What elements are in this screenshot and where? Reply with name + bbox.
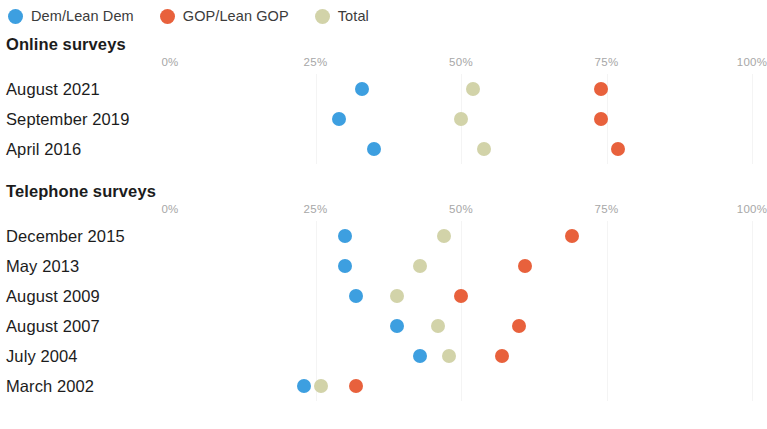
chart-row: August 2007 — [0, 311, 758, 341]
gridline — [752, 251, 753, 281]
gridline — [316, 281, 317, 311]
axis-tick-label: 25% — [304, 56, 328, 68]
gridline — [316, 341, 317, 371]
section-spacer — [0, 164, 758, 182]
data-point-dem[interactable] — [355, 82, 369, 96]
data-point-gop[interactable] — [454, 289, 468, 303]
gridline — [316, 104, 317, 134]
chart-row: May 2013 — [0, 251, 758, 281]
row-plot-area — [170, 311, 752, 341]
gridline — [607, 221, 608, 251]
gridline — [752, 134, 753, 164]
axis-tick-label: 75% — [595, 203, 619, 215]
chart-row: August 2021 — [0, 74, 758, 104]
gridline — [316, 134, 317, 164]
gridline — [316, 311, 317, 341]
chart-legend: Dem/Lean DemGOP/Lean GOPTotal — [0, 0, 758, 26]
gridline — [752, 371, 753, 401]
data-point-dem[interactable] — [390, 319, 404, 333]
data-point-gop[interactable] — [495, 349, 509, 363]
data-point-total[interactable] — [437, 229, 451, 243]
legend-item-total[interactable]: Total — [315, 8, 369, 24]
gridline — [752, 341, 753, 371]
gridline — [607, 251, 608, 281]
gridline — [752, 281, 753, 311]
gridline — [461, 371, 462, 401]
data-point-total[interactable] — [454, 112, 468, 126]
data-point-dem[interactable] — [413, 349, 427, 363]
chart-row: September 2019 — [0, 104, 758, 134]
gridline — [752, 311, 753, 341]
chart-body: Online surveys0%25%50%75%100%August 2021… — [0, 35, 758, 401]
gridline — [752, 221, 753, 251]
data-point-dem[interactable] — [349, 289, 363, 303]
row-plot-area — [170, 371, 752, 401]
legend-item-dem[interactable]: Dem/Lean Dem — [8, 8, 134, 24]
x-axis-online: 0%25%50%75%100% — [170, 54, 752, 74]
row-label: September 2019 — [0, 110, 170, 129]
chart-section-phone: Telephone surveys0%25%50%75%100%December… — [0, 182, 758, 401]
data-point-dem[interactable] — [297, 379, 311, 393]
legend-swatch-total-icon — [315, 9, 330, 24]
row-plot-area — [170, 341, 752, 371]
gridline — [461, 134, 462, 164]
gridline — [752, 104, 753, 134]
chart-row: April 2016 — [0, 134, 758, 164]
row-label: August 2007 — [0, 317, 170, 336]
chart-row: March 2002 — [0, 371, 758, 401]
gridline — [607, 341, 608, 371]
section-title: Online surveys — [0, 35, 758, 54]
data-point-dem[interactable] — [332, 112, 346, 126]
legend-item-gop[interactable]: GOP/Lean GOP — [160, 8, 289, 24]
axis-tick-label: 25% — [304, 203, 328, 215]
row-label: August 2021 — [0, 80, 170, 99]
gridline — [607, 371, 608, 401]
legend-swatch-gop-icon — [160, 9, 175, 24]
data-point-total[interactable] — [390, 289, 404, 303]
axis-tick-label: 0% — [161, 56, 178, 68]
row-label: March 2002 — [0, 377, 170, 396]
data-point-total[interactable] — [413, 259, 427, 273]
data-point-dem[interactable] — [338, 259, 352, 273]
chart-rows: August 2021September 2019April 2016 — [0, 74, 758, 164]
row-plot-area — [170, 74, 752, 104]
data-point-total[interactable] — [466, 82, 480, 96]
axis-tick-label: 50% — [449, 203, 473, 215]
data-point-gop[interactable] — [512, 319, 526, 333]
row-plot-area — [170, 281, 752, 311]
axis-tick-label: 0% — [161, 203, 178, 215]
chart-section-online: Online surveys0%25%50%75%100%August 2021… — [0, 35, 758, 164]
chart-row: July 2004 — [0, 341, 758, 371]
data-point-gop[interactable] — [518, 259, 532, 273]
row-plot-area — [170, 251, 752, 281]
gridline — [461, 221, 462, 251]
gridline — [607, 281, 608, 311]
gridline — [316, 74, 317, 104]
gridline — [752, 74, 753, 104]
gridline — [316, 251, 317, 281]
data-point-gop[interactable] — [565, 229, 579, 243]
data-point-gop[interactable] — [594, 82, 608, 96]
legend-swatch-dem-icon — [8, 9, 23, 24]
data-point-total[interactable] — [477, 142, 491, 156]
row-label: May 2013 — [0, 257, 170, 276]
axis-tick-label: 50% — [449, 56, 473, 68]
gridline — [461, 251, 462, 281]
data-point-total[interactable] — [314, 379, 328, 393]
data-point-gop[interactable] — [611, 142, 625, 156]
data-point-total[interactable] — [431, 319, 445, 333]
data-point-dem[interactable] — [338, 229, 352, 243]
data-point-gop[interactable] — [349, 379, 363, 393]
row-plot-area — [170, 104, 752, 134]
row-plot-area — [170, 221, 752, 251]
chart-row: December 2015 — [0, 221, 758, 251]
legend-label: Total — [338, 8, 369, 24]
data-point-dem[interactable] — [367, 142, 381, 156]
legend-label: Dem/Lean Dem — [31, 8, 134, 24]
section-title: Telephone surveys — [0, 182, 758, 201]
row-label: July 2004 — [0, 347, 170, 366]
data-point-total[interactable] — [442, 349, 456, 363]
data-point-gop[interactable] — [594, 112, 608, 126]
row-label: April 2016 — [0, 140, 170, 159]
gridline — [607, 311, 608, 341]
